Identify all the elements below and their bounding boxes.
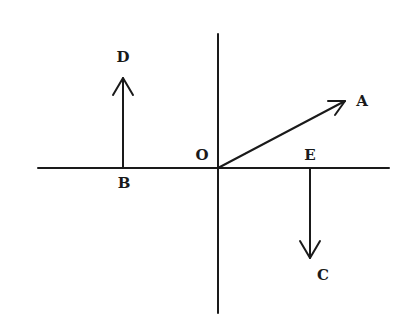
vector-ec	[300, 168, 320, 258]
label-e: E	[304, 146, 315, 164]
label-c: C	[317, 266, 329, 284]
vector-diagram: O A B C D E	[0, 0, 413, 322]
vector-bd	[113, 78, 133, 168]
label-a: A	[355, 92, 368, 110]
label-b: B	[118, 174, 131, 192]
label-o: O	[195, 146, 208, 164]
vector-oa	[218, 101, 345, 168]
label-d: D	[116, 48, 129, 66]
